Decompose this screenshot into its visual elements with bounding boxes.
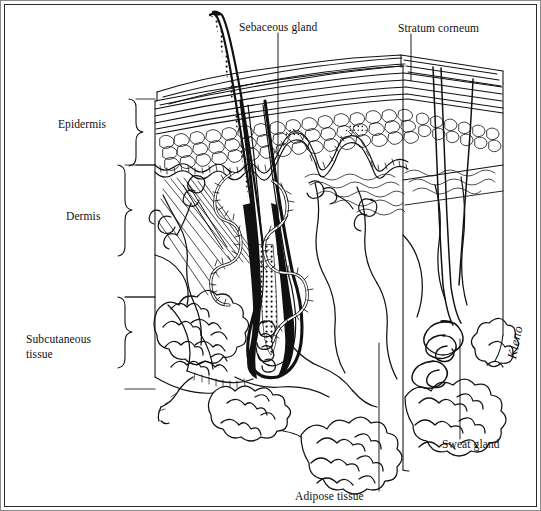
label-sebaceous-gland: Sebaceous gland — [239, 21, 317, 34]
arrector-pili-muscle — [183, 182, 227, 249]
block-outline — [118, 11, 519, 495]
label-dermis: Dermis — [66, 210, 100, 223]
label-subcutaneous-tissue-line2: tissue — [26, 347, 53, 361]
block-edges — [155, 191, 503, 471]
epidermis-bracket — [129, 99, 155, 166]
figure-frame: Sebaceous gland Stratum corneum Epidermi… — [0, 0, 541, 511]
label-sweat-gland: Sweat gland — [442, 438, 500, 451]
label-adipose-tissue: Adipose tissue — [295, 490, 364, 503]
dermis-bracket — [118, 165, 155, 297]
adipose-tissue — [154, 290, 519, 494]
epidermis-layer — [155, 66, 503, 134]
label-epidermis: Epidermis — [58, 118, 106, 131]
subcutaneous-bracket — [118, 297, 155, 389]
label-subcutaneous-tissue-line1: Subcutaneous — [26, 332, 91, 346]
sweat-gland-coil — [412, 321, 463, 389]
skin-cross-section-illustration — [5, 5, 537, 507]
figure-inner-border: Sebaceous gland Stratum corneum Epidermi… — [4, 4, 537, 507]
label-stratum-corneum: Stratum corneum — [398, 22, 479, 35]
